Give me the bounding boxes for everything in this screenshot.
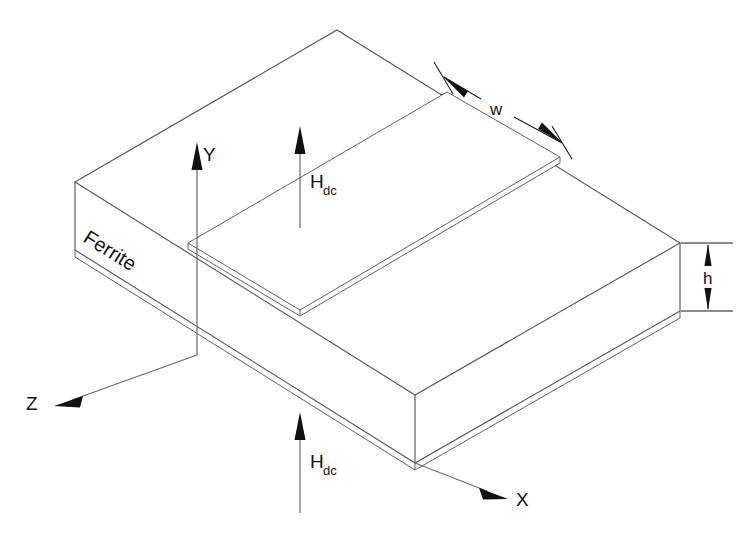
bias-field-lower-subscript: dc bbox=[323, 463, 337, 478]
width-extension-line-start bbox=[434, 62, 453, 94]
z-axis-line bbox=[72, 355, 197, 400]
substrate-height-dimension: h bbox=[681, 243, 733, 311]
x-axis: X bbox=[415, 463, 529, 510]
figure-root: Y Z X H dc H dc bbox=[0, 0, 753, 545]
bias-field-upper-symbol: H bbox=[310, 171, 324, 192]
bias-field-lower-symbol: H bbox=[310, 451, 324, 472]
bias-field-lower-arrowhead-icon bbox=[295, 412, 306, 440]
height-arrowhead-bottom-icon bbox=[704, 288, 711, 310]
bias-field-upper-subscript: dc bbox=[323, 183, 337, 198]
z-axis-label: Z bbox=[26, 393, 38, 414]
microstrip-ferrite-diagram: Y Z X H dc H dc bbox=[0, 0, 753, 545]
y-axis-label: Y bbox=[203, 144, 216, 165]
z-axis: Z bbox=[26, 355, 197, 414]
x-axis-line bbox=[415, 463, 487, 491]
height-arrowhead-top-icon bbox=[704, 244, 711, 266]
width-dimension-label: w bbox=[489, 100, 503, 119]
z-axis-arrowhead-icon bbox=[54, 396, 83, 408]
width-arrowhead-end-icon bbox=[538, 123, 563, 144]
height-dimension-label: h bbox=[703, 269, 712, 288]
x-axis-label: X bbox=[516, 489, 529, 510]
bias-field-lower: H dc bbox=[295, 412, 338, 513]
x-axis-arrowhead-icon bbox=[479, 488, 508, 500]
